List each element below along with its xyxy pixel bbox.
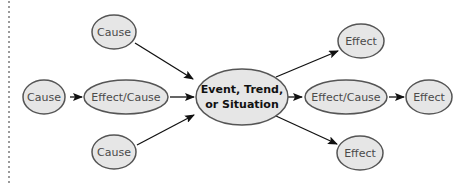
- node-cause-left: Cause: [23, 80, 65, 114]
- arrow-cause-bottom-to-center: [137, 115, 194, 145]
- center-label-line1: Event, Trend,: [201, 83, 283, 96]
- node-label: Effect: [413, 91, 445, 104]
- node-effect-cause-right: Effect/Cause: [305, 80, 387, 114]
- node-effect-right: Effect: [406, 80, 452, 114]
- node-cause-bottom: Cause: [92, 135, 136, 169]
- arrow-cause-top-to-center: [135, 43, 193, 79]
- node-label: Effect/Cause: [311, 91, 380, 104]
- cause-effect-diagram: Cause Cause Effect/Cause Cause Event, Tr…: [0, 0, 473, 183]
- node-label: Effect: [345, 35, 377, 48]
- node-effect-bottom: Effect: [337, 136, 383, 170]
- node-label: Cause: [97, 146, 131, 159]
- arrow-center-to-effect-bottom: [276, 116, 337, 144]
- node-center-event: Event, Trend, or Situation: [196, 69, 288, 125]
- arrow-center-to-effect-top: [276, 51, 338, 77]
- node-label: Cause: [97, 26, 131, 39]
- node-effect-cause-left: Effect/Cause: [84, 80, 168, 114]
- node-cause-top: Cause: [92, 15, 136, 49]
- center-label-line2: or Situation: [205, 98, 278, 111]
- node-effect-top: Effect: [338, 24, 384, 58]
- node-label: Effect: [344, 147, 376, 160]
- node-label: Cause: [27, 91, 61, 104]
- node-label: Effect/Cause: [91, 91, 160, 104]
